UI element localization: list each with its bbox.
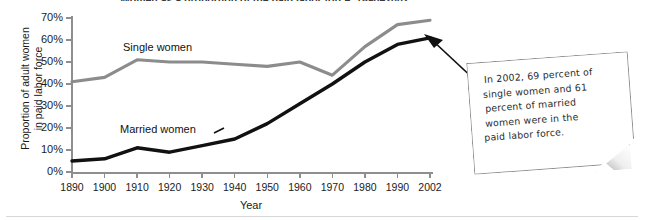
series-label-married-women: Married women xyxy=(120,123,196,135)
callout-note: In 2002, 69 percent ofsingle women and 6… xyxy=(470,57,632,169)
chart-figure: Women as a proportion of the paid labor … xyxy=(0,0,645,220)
series-label-single-women: Single women xyxy=(123,41,192,53)
line-married-women xyxy=(72,38,430,161)
married-label-tick xyxy=(214,128,224,133)
callout-note-text: In 2002, 69 percent ofsingle women and 6… xyxy=(482,63,623,145)
scan-hairline xyxy=(6,216,638,217)
